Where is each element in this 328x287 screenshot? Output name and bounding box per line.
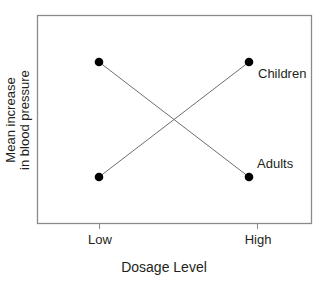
x-axis-label: Dosage Level bbox=[0, 259, 328, 275]
y-axis-label-line-2: in blood pressure bbox=[18, 30, 32, 210]
y-axis-label: Mean increase in blood pressure bbox=[4, 30, 34, 210]
series-label-children: Children bbox=[258, 66, 306, 81]
x-tick-label-high: High bbox=[245, 232, 272, 247]
point-children-low bbox=[95, 173, 104, 182]
y-axis-label-line-1: Mean increase bbox=[4, 30, 18, 210]
point-children-high bbox=[245, 58, 254, 67]
point-adults-low bbox=[95, 58, 104, 67]
point-adults-high bbox=[245, 173, 254, 182]
x-tick-label-low: Low bbox=[88, 232, 112, 247]
chart-canvas bbox=[0, 0, 328, 287]
series-label-adults: Adults bbox=[257, 156, 293, 171]
